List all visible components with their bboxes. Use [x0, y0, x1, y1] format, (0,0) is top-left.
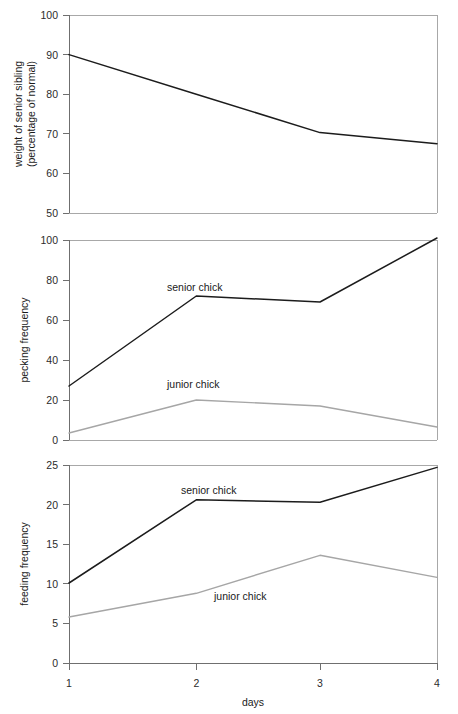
three-panel-chick-figure: 100 90 80 70 60 50 weight of senior sibl… [0, 0, 458, 714]
panel1-ylabel-100: 100 [40, 9, 58, 21]
panel3-ylabel-20: 20 [46, 499, 58, 511]
panel1-ylabel-80: 80 [46, 88, 58, 100]
panel3-label-senior-chick: senior chick [181, 484, 237, 496]
panel2-ylabel-20: 20 [46, 394, 58, 406]
panel1-ylabel-60: 60 [46, 167, 58, 179]
panel3-xlabel-2: 2 [193, 677, 199, 689]
panel3-xlabel-4: 4 [434, 677, 440, 689]
panel2-series-senior-chick [69, 238, 437, 386]
panel2-ylabel-80: 80 [46, 274, 58, 286]
panel-weight-of-senior-sibling: 100 90 80 70 60 50 weight of senior sibl… [12, 9, 437, 219]
panel3-ylabel-10: 10 [46, 578, 58, 590]
panel-feeding-frequency: 25 20 15 10 5 0 feeding frequency 1 2 3 … [18, 459, 440, 708]
panel1-y-axis-title-line2: (percentage of normal) [25, 61, 37, 167]
panel3-label-junior-chick: junior chick [213, 590, 267, 602]
panel1-ylabel-90: 90 [46, 49, 58, 61]
panel2-ylabel-60: 60 [46, 314, 58, 326]
panel2-y-axis-title: pecking frequency [18, 297, 30, 383]
panel3-series-junior-chick [69, 555, 437, 617]
panel1-series-senior-weight [69, 55, 437, 144]
panel3-xlabel-1: 1 [66, 677, 72, 689]
panel2-series-junior-chick [69, 400, 437, 433]
panel3-y-axis-title: feeding frequency [18, 522, 30, 606]
panel3-ylabel-25: 25 [46, 459, 58, 471]
panel1-ylabel-50: 50 [46, 207, 58, 219]
x-axis-title-days: days [242, 696, 264, 708]
panel2-ylabel-100: 100 [40, 234, 58, 246]
panel-pecking-frequency: 100 80 60 40 20 0 pecking frequency seni… [18, 234, 437, 446]
panel3-ylabel-5: 5 [52, 617, 58, 629]
panel1-y-axis-title-line1: weight of senior sibling [12, 61, 24, 168]
panel3-ylabel-0: 0 [52, 657, 58, 669]
panel2-ylabel-40: 40 [46, 354, 58, 366]
panel2-label-senior-chick: senior chick [167, 281, 223, 293]
panel2-ylabel-0: 0 [52, 434, 58, 446]
panel2-label-junior-chick: junior chick [166, 378, 220, 390]
panel1-ylabel-70: 70 [46, 128, 58, 140]
panel3-ylabel-15: 15 [46, 538, 58, 550]
panel3-xlabel-3: 3 [317, 677, 323, 689]
panel3-series-senior-chick [69, 467, 437, 583]
